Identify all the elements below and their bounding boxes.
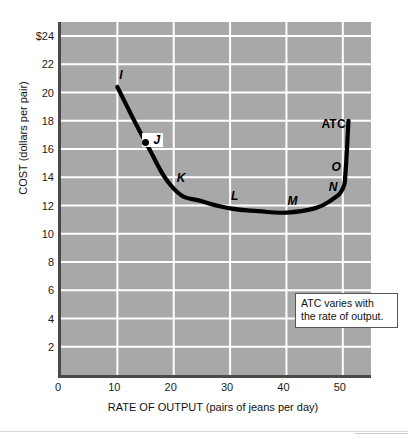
y-tick-label-2: 2: [2, 341, 54, 352]
x-axis-tick-labels: 01020304050: [58, 381, 368, 397]
point-label-o: O: [332, 161, 341, 173]
point-label-l: L: [231, 190, 238, 202]
annotation-line-2: the rate of output.: [301, 310, 393, 323]
y-tick-label-10: 10: [2, 228, 54, 239]
y-tick-label-6: 6: [2, 285, 54, 296]
annotation-callout: ATC varies with the rate of output.: [295, 293, 398, 328]
y-axis-title: COST (dollars per pair): [17, 53, 29, 223]
point-label-i: I: [119, 69, 122, 81]
x-tick-label-20: 20: [165, 381, 177, 393]
annotation-line-1: ATC varies with: [301, 297, 393, 310]
x-tick-label-30: 30: [221, 381, 233, 393]
chart-figure: 246810121416182022$24 COST (dollars per …: [0, 0, 408, 439]
bottom-divider-right: [355, 433, 408, 434]
y-tick-label-24: $24: [2, 31, 54, 42]
x-tick-label-0: 0: [55, 381, 61, 393]
bottom-divider: [0, 431, 408, 432]
point-label-n: N: [329, 181, 338, 193]
y-tick-label-4: 4: [2, 313, 54, 324]
point-label-k: K: [177, 172, 186, 184]
x-tick-label-50: 50: [334, 381, 346, 393]
atc-curve-label: ATC: [321, 117, 345, 131]
x-tick-label-40: 40: [277, 381, 289, 393]
x-tick-label-10: 10: [108, 381, 120, 393]
point-label-m: M: [287, 195, 297, 207]
x-axis-title: RATE OF OUTPUT (pairs of jeans per day): [58, 401, 368, 413]
point-marker-j: [142, 139, 149, 146]
y-tick-label-8: 8: [2, 257, 54, 268]
